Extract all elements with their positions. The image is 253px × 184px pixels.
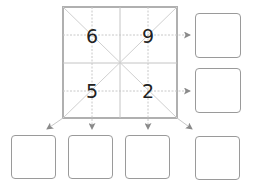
answer-box-column-1[interactable] [68, 135, 113, 179]
cell-bottom-right: 2 [142, 82, 154, 101]
diagonal-left-arrow [47, 118, 63, 129]
cell-bottom-left: 5 [86, 82, 98, 101]
answer-box-column-2[interactable] [125, 135, 170, 179]
answer-box-row-1[interactable] [195, 13, 241, 58]
answer-box-row-2[interactable] [195, 68, 241, 113]
diagonal-right-arrow [177, 118, 192, 129]
cell-top-right: 9 [142, 27, 154, 46]
answer-box-diagonal-right[interactable] [195, 136, 240, 180]
cell-top-left: 6 [86, 27, 98, 46]
answer-box-diagonal-left[interactable] [11, 135, 56, 179]
